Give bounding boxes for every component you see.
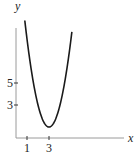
x-tick-label-1: 1 xyxy=(24,141,30,155)
x-axis-label: x xyxy=(127,131,134,145)
y-axis-label: y xyxy=(14,0,21,13)
y-tick-label-3: 3 xyxy=(7,98,13,112)
x-tick-label-3: 3 xyxy=(46,141,52,155)
parabola-curve xyxy=(25,21,72,127)
chart: 1 3 5 3 x y xyxy=(0,0,140,166)
y-tick-label-5: 5 xyxy=(7,76,13,90)
